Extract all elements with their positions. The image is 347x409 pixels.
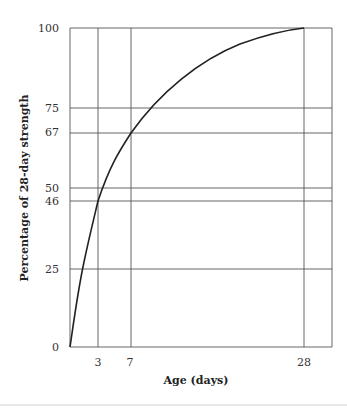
strength-curve	[70, 28, 304, 347]
horizontal-gridlines	[70, 28, 332, 347]
y-tick-labels: 100 75 67 50 46 25 0	[38, 22, 59, 354]
strength-chart: 100 75 67 50 46 25 0 3 7 28 Age (days) P…	[0, 0, 347, 409]
vertical-gridlines	[70, 28, 332, 347]
y-tick-75: 75	[45, 102, 59, 115]
y-tick-25: 25	[45, 263, 59, 276]
y-tick-0: 0	[52, 341, 59, 354]
y-tick-100: 100	[38, 22, 59, 35]
x-tick-28: 28	[297, 356, 311, 369]
x-tick-7: 7	[127, 356, 134, 369]
bottom-divider	[0, 404, 347, 406]
x-axis-label: Age (days)	[163, 374, 229, 387]
y-tick-67: 67	[45, 126, 59, 139]
x-tick-labels: 3 7 28	[95, 356, 312, 369]
x-tick-3: 3	[95, 356, 102, 369]
y-tick-50: 50	[45, 182, 59, 195]
y-axis-label: Percentage of 28-day strength	[18, 95, 31, 282]
y-tick-46: 46	[45, 195, 59, 208]
